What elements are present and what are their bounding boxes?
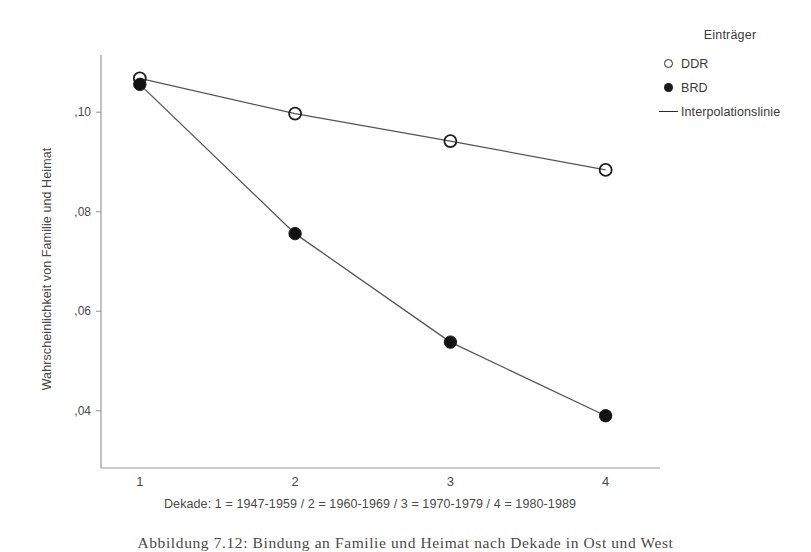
interpolation-line-ddr (140, 78, 606, 170)
y-tick-label: ,04 (74, 404, 91, 418)
legend-title: Einträger (671, 28, 789, 42)
legend-item-label: BRD (681, 81, 708, 95)
y-tick-label: ,08 (74, 205, 91, 219)
line-icon (655, 111, 681, 112)
chart-figure: ,04,06,08,10 1234 Wahrscheinlichkeit von… (0, 0, 811, 552)
legend: Einträger DDR BRD Interpolationslinie (655, 28, 811, 125)
data-point-brd-4[interactable] (599, 410, 611, 422)
y-axis-title: Wahrscheinlichkeit von Familie und Heima… (40, 104, 54, 434)
legend-item-label: DDR (681, 57, 708, 71)
x-axis-title: Dekade: 1 = 1947-1959 / 2 = 1960-1969 / … (90, 497, 650, 511)
open-circle-icon (655, 59, 681, 68)
data-point-brd-1[interactable] (134, 78, 146, 90)
legend-item-label: Interpolationslinie (681, 105, 780, 119)
figure-caption: Abbildung 7.12: Bindung an Familie und H… (0, 534, 811, 552)
x-tick-group: 1234 (136, 474, 609, 489)
series-marker-group (134, 72, 612, 422)
legend-item-ddr[interactable]: DDR (655, 53, 811, 74)
interpolation-line-brd (140, 84, 606, 415)
data-point-brd-3[interactable] (444, 336, 456, 348)
x-tick-label: 2 (291, 474, 298, 489)
y-tick-label: ,10 (74, 105, 91, 119)
x-tick-label: 3 (447, 474, 454, 489)
filled-circle-icon (655, 83, 681, 92)
x-tick-label: 1 (136, 474, 143, 489)
x-tick-label: 4 (602, 474, 609, 489)
y-tick-label: ,06 (74, 304, 91, 318)
series-line-group (140, 78, 606, 415)
data-point-brd-2[interactable] (289, 227, 301, 239)
y-tick-group: ,04,06,08,10 (74, 105, 101, 418)
legend-item-brd[interactable]: BRD (655, 77, 811, 98)
legend-item-interpolation[interactable]: Interpolationslinie (655, 101, 811, 122)
